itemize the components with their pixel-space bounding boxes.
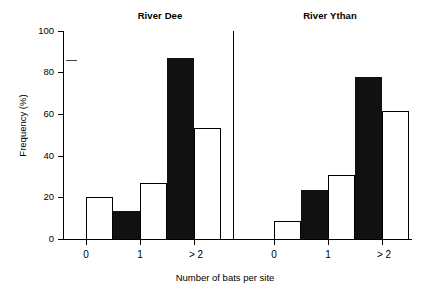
- x-tick-right-0: [274, 240, 275, 245]
- x-axis-line: [63, 239, 412, 240]
- x-tick-label-right-2: > 2: [364, 249, 404, 260]
- bar-right-cat1-filled: [301, 190, 328, 239]
- bar-right-cat2-open: [382, 111, 409, 239]
- x-tick-right-1: [328, 240, 329, 245]
- x-tick-left-0: [86, 240, 87, 245]
- x-tick-label-right-0: 0: [254, 249, 294, 260]
- x-tick-label-left-1: 1: [120, 249, 160, 260]
- bar-right-cat0-open: [274, 221, 301, 239]
- bar-left-cat1-filled: [113, 211, 140, 239]
- bat-frequency-figure: River Dee River Ythan Frequency (%) Numb…: [0, 0, 421, 297]
- bar-left-cat1-open: [140, 183, 167, 239]
- x-tick-right-2: [382, 240, 383, 245]
- x-tick-left-1: [140, 240, 141, 245]
- bar-left-cat0-open: [86, 197, 113, 239]
- x-tick-label-left-0: 0: [66, 249, 106, 260]
- x-tick-label-right-1: 1: [308, 249, 348, 260]
- x-axis-label: Number of bats per site: [60, 272, 390, 283]
- bar-left-cat2-open: [194, 128, 221, 239]
- bar-right-cat1-open: [328, 175, 355, 239]
- x-tick-left-2: [194, 240, 195, 245]
- bar-right-cat2-filled: [355, 77, 382, 239]
- y-tick-0: [58, 239, 63, 240]
- x-tick-label-left-2: > 2: [176, 249, 216, 260]
- bar-left-cat2-filled: [167, 58, 194, 239]
- bars-layer: [0, 0, 421, 239]
